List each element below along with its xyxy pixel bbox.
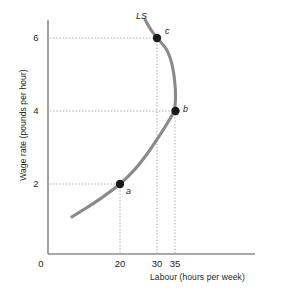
plot-area bbox=[0, 0, 289, 295]
point-label-c: c bbox=[165, 26, 170, 36]
data-point-c bbox=[153, 34, 161, 42]
y-tick-label-4: 4 bbox=[29, 105, 43, 116]
labour-supply-curve bbox=[72, 20, 176, 217]
data-point-b bbox=[171, 107, 179, 115]
curve-label-ls: LS bbox=[136, 11, 147, 21]
point-label-b: b bbox=[183, 104, 188, 114]
y-tick-label-2: 2 bbox=[29, 178, 43, 189]
x-tick-label-35: 35 bbox=[165, 258, 185, 269]
data-point-a bbox=[116, 180, 124, 188]
x-tick-label-20: 20 bbox=[110, 258, 130, 269]
x-axis-title: Labour (hours per week) bbox=[150, 272, 245, 282]
x-tick-label-30: 30 bbox=[147, 258, 167, 269]
origin-label: 0 bbox=[34, 258, 48, 269]
point-label-a: a bbox=[126, 186, 131, 196]
y-tick-label-6: 6 bbox=[29, 32, 43, 43]
y-axis-title: Wage rate (pounds per hour) bbox=[18, 40, 28, 210]
labour-supply-chart: LS a b c 6 4 2 0 20 30 35 Wage rate (pou… bbox=[0, 0, 289, 295]
